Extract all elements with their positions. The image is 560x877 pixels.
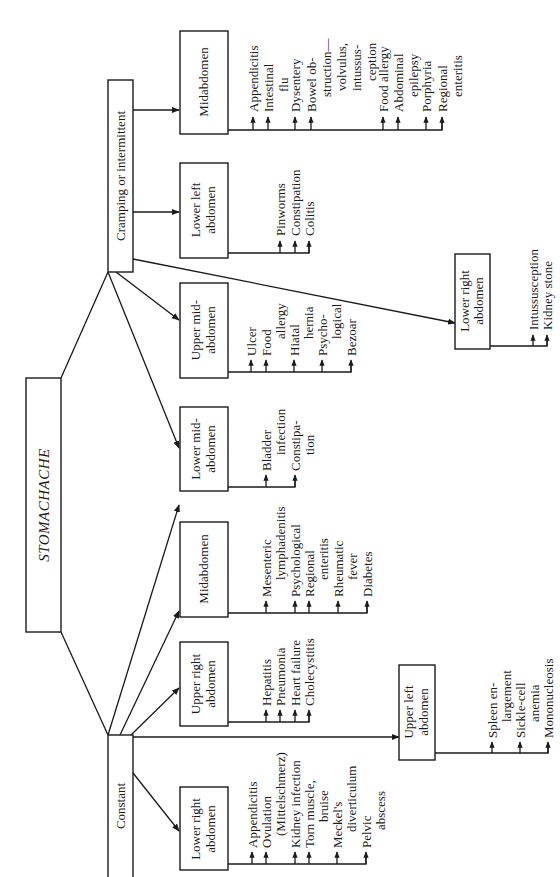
svg-text:abdomen: abdomen: [416, 688, 431, 736]
constant-upper-left-causes: Spleen en- largement Sickle-cell anemia …: [435, 659, 556, 753]
svg-text:bruise: bruise: [316, 790, 331, 822]
svg-text:Constipation: Constipation: [288, 169, 303, 236]
svg-text:abdomen: abdomen: [203, 425, 218, 473]
svg-text:Kidney stone: Kidney stone: [540, 261, 555, 330]
svg-text:volvulus,: volvulus,: [334, 43, 349, 91]
svg-text:hernia: hernia: [301, 306, 316, 339]
svg-text:Psychological: Psychological: [288, 524, 303, 597]
svg-text:Rheumatic: Rheumatic: [331, 540, 346, 597]
constant-midabdomen-causes: Mesenteric lymphadenitis Psychological R…: [228, 506, 375, 613]
cramping-lower-mid-node: Lower mid- abdomen: [180, 407, 228, 491]
cramping-lower-mid-causes: Bladder infection Constipa- tion: [228, 408, 317, 487]
svg-text:enteritis: enteritis: [450, 55, 465, 97]
root-label: STOMACHACHE: [36, 448, 52, 562]
branch-cramping-label: Cramping or intermittent: [113, 111, 128, 241]
cramping-lower-left-causes: Pinworms Constipation Colitis: [228, 169, 317, 253]
svg-text:Mesenteric: Mesenteric: [259, 539, 274, 597]
svg-text:Mononucleosis: Mononucleosis: [541, 659, 556, 738]
svg-text:Lower right: Lower right: [457, 270, 472, 332]
svg-text:abdomen: abdomen: [203, 805, 218, 853]
svg-text:Hiatal: Hiatal: [287, 324, 302, 356]
svg-text:Pelvic: Pelvic: [359, 815, 374, 848]
svg-text:Upper right: Upper right: [188, 653, 203, 714]
svg-text:largement: largement: [499, 670, 514, 722]
svg-text:diverticulum: diverticulum: [344, 766, 359, 832]
constant-lower-right-causes: Appendicitis Ovulation (Mittelschmerz) K…: [228, 752, 388, 864]
svg-text:abdomen: abdomen: [203, 186, 218, 234]
svg-text:Intestinal: Intestinal: [261, 63, 276, 112]
svg-text:anemia: anemia: [527, 684, 542, 722]
branch-constant-label: Constant: [113, 783, 128, 830]
svg-text:abscess: abscess: [373, 791, 388, 830]
branch-cramping-node: Cramping or intermittent: [108, 80, 133, 272]
svg-text:Pneumonia: Pneumonia: [273, 647, 288, 706]
svg-text:enteritis: enteritis: [316, 538, 331, 580]
cramping-lower-right-node: Lower right abdomen: [455, 254, 490, 349]
svg-text:Torn muscle,: Torn muscle,: [302, 780, 317, 848]
svg-text:struction—: struction—: [319, 38, 334, 97]
svg-text:Food: Food: [259, 329, 274, 356]
svg-text:Ovulation: Ovulation: [259, 796, 274, 848]
branch-constant-node: Constant: [108, 735, 133, 877]
svg-text:Ulcer: Ulcer: [244, 326, 259, 356]
svg-text:Porphyria: Porphyria: [419, 61, 434, 113]
svg-text:Bezoar: Bezoar: [344, 319, 359, 356]
svg-text:Midabdomen: Midabdomen: [196, 47, 211, 117]
svg-text:intussus-: intussus-: [349, 45, 364, 91]
svg-text:tion: tion: [302, 434, 317, 455]
svg-text:Hepatitis: Hepatitis: [259, 659, 274, 706]
svg-text:Psycho-: Psycho-: [315, 314, 330, 356]
svg-text:logical: logical: [329, 303, 344, 339]
svg-text:Pinworms: Pinworms: [273, 183, 288, 236]
svg-text:Dysentery: Dysentery: [288, 58, 303, 112]
connector-root-constant: [61, 632, 108, 735]
constant-upper-right-node: Upper right abdomen: [180, 642, 228, 726]
root-node: STOMACHACHE: [26, 378, 61, 632]
svg-text:Lower right: Lower right: [188, 798, 203, 860]
svg-text:Constipa-: Constipa-: [288, 420, 303, 471]
cramping-midabdomen-node: Midabdomen: [180, 31, 228, 134]
svg-text:Intussusception: Intussusception: [526, 249, 541, 330]
connector-root-cramping: [61, 272, 108, 378]
constant-midabdomen-node: Midabdomen: [180, 522, 228, 617]
svg-text:Meckel's: Meckel's: [330, 802, 345, 848]
svg-text:Lower mid-: Lower mid-: [188, 418, 203, 480]
svg-text:Spleen en-: Spleen en-: [485, 683, 500, 738]
svg-text:fever: fever: [345, 553, 360, 580]
cramping-upper-mid-causes: Ulcer Food allergy Hiatal hernia Psycho-…: [228, 303, 359, 372]
svg-text:Upper mid-: Upper mid-: [188, 300, 203, 360]
svg-text:Upper left: Upper left: [401, 685, 416, 738]
svg-text:Appendicitis: Appendicitis: [245, 782, 260, 848]
svg-text:Lower left: Lower left: [188, 182, 203, 237]
svg-text:abdomen: abdomen: [203, 306, 218, 354]
svg-text:Abdominal: Abdominal: [391, 53, 406, 112]
stomachache-flowchart: STOMACHACHE Cramping or intermittent Con…: [0, 0, 560, 877]
svg-text:abdomen: abdomen: [203, 660, 218, 708]
svg-text:Sickle-cell: Sickle-cell: [513, 682, 528, 738]
svg-text:Appendicitis: Appendicitis: [246, 46, 261, 112]
svg-text:Midabdomen: Midabdomen: [196, 534, 211, 604]
svg-text:Heart failure: Heart failure: [288, 640, 303, 706]
svg-text:(Mittelschmerz): (Mittelschmerz): [273, 752, 288, 836]
constant-upper-right-causes: Hepatitis Pneumonia Heart failure Cholec…: [228, 638, 317, 722]
svg-text:infection: infection: [273, 408, 288, 455]
svg-text:Bladder: Bladder: [259, 429, 274, 471]
svg-text:Bowel ob-: Bowel ob-: [304, 57, 319, 112]
svg-text:allergy: allergy: [273, 303, 288, 339]
svg-text:Regional: Regional: [435, 65, 450, 112]
svg-text:Cholecystitis: Cholecystitis: [302, 638, 317, 706]
svg-text:Colitis: Colitis: [302, 201, 317, 236]
cramping-lower-left-node: Lower left abdomen: [180, 163, 228, 258]
cramping-midabdomen-causes: Appendicitis Intestinal flu Dysentery Bo…: [228, 38, 465, 130]
svg-text:lymphadenitis: lymphadenitis: [273, 506, 288, 580]
cramping-lower-right-causes: Intussusception Kidney stone: [490, 249, 555, 346]
cramping-upper-mid-node: Upper mid- abdomen: [180, 283, 228, 378]
svg-text:Kidney infection: Kidney infection: [288, 760, 303, 848]
constant-lower-right-node: Lower right abdomen: [180, 787, 228, 870]
svg-text:Food allergy: Food allergy: [376, 46, 391, 112]
svg-text:Regional: Regional: [302, 550, 317, 597]
svg-text:Diabetes: Diabetes: [360, 552, 375, 597]
svg-text:abdomen: abdomen: [471, 277, 486, 325]
constant-upper-left-node: Upper left abdomen: [399, 665, 435, 760]
